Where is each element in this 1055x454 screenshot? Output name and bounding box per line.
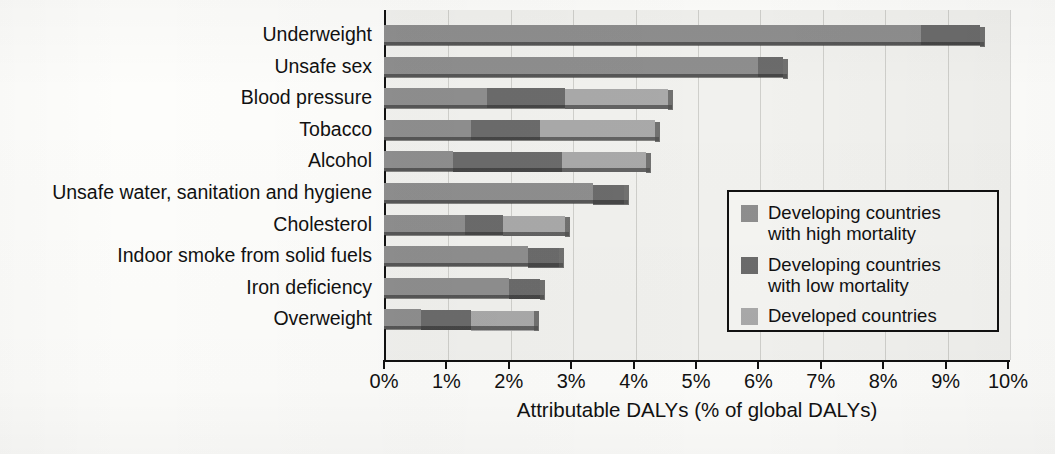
category-axis-labels: UnderweightUnsafe sexBlood pressureTobac… bbox=[0, 10, 378, 360]
category-label-iron-deficiency: Iron deficiency bbox=[246, 278, 372, 298]
bar-shadow bbox=[384, 42, 984, 46]
legend-item-developed[interactable]: Developed countries bbox=[741, 305, 989, 326]
category-label-unsafe-water-sanitation-and-hygiene: Unsafe water, sanitation and hygiene bbox=[52, 183, 372, 203]
legend-item-high-mortality[interactable]: Developing countries with high mortality bbox=[741, 202, 989, 245]
legend-label-developed: Developed countries bbox=[768, 305, 937, 326]
category-label-blood-pressure: Blood pressure bbox=[241, 88, 372, 108]
bar-end-cap bbox=[624, 185, 629, 205]
bar-end-cap bbox=[668, 90, 673, 110]
legend-label-low-mortality: Developing countries with low mortality bbox=[768, 254, 941, 297]
bar-shadow bbox=[384, 168, 650, 172]
x-tick-7% bbox=[820, 360, 822, 369]
bar-end-cap bbox=[783, 59, 788, 79]
category-label-cholesterol: Cholesterol bbox=[273, 215, 372, 235]
legend-swatch-high-mortality bbox=[741, 205, 758, 222]
x-tick-label-6%: 6% bbox=[744, 370, 773, 393]
bar-shadow bbox=[384, 232, 569, 236]
x-tick-label-0%: 0% bbox=[370, 370, 399, 393]
bar-shadow bbox=[384, 326, 538, 330]
bar-shadow bbox=[384, 263, 563, 267]
x-tick-label-2%: 2% bbox=[494, 370, 523, 393]
legend-label-high-mortality: Developing countries with high mortality bbox=[768, 202, 941, 245]
x-tick-2% bbox=[508, 360, 510, 369]
category-label-overweight: Overweight bbox=[273, 309, 372, 329]
x-tick-0% bbox=[383, 360, 385, 369]
x-tick-label-10%: 10% bbox=[988, 370, 1028, 393]
bar-end-cap bbox=[655, 122, 660, 142]
chart-legend: Developing countries with high mortality… bbox=[727, 190, 999, 332]
bar-shadow bbox=[384, 105, 672, 109]
x-axis-title: Attributable DALYs (% of global DALYs) bbox=[384, 398, 1010, 422]
x-axis-line bbox=[384, 360, 1010, 362]
x-tick-label-4%: 4% bbox=[619, 370, 648, 393]
x-tick-label-1%: 1% bbox=[432, 370, 461, 393]
bar-shadow bbox=[384, 295, 544, 299]
chart-page: UnderweightUnsafe sexBlood pressureTobac… bbox=[0, 0, 1055, 454]
category-label-alcohol: Alcohol bbox=[308, 151, 372, 171]
x-tick-3% bbox=[570, 360, 572, 369]
x-tick-5% bbox=[695, 360, 697, 369]
bar-end-cap bbox=[646, 153, 651, 173]
x-tick-label-9%: 9% bbox=[931, 370, 960, 393]
legend-item-low-mortality[interactable]: Developing countries with low mortality bbox=[741, 254, 989, 297]
x-tick-6% bbox=[757, 360, 759, 369]
bar-end-cap bbox=[980, 27, 985, 47]
x-tick-label-5%: 5% bbox=[682, 370, 711, 393]
category-label-underweight: Underweight bbox=[263, 25, 372, 45]
x-tick-label-8%: 8% bbox=[869, 370, 898, 393]
x-tick-4% bbox=[633, 360, 635, 369]
bar-end-cap bbox=[540, 280, 545, 300]
x-tick-1% bbox=[445, 360, 447, 369]
bar-end-cap bbox=[534, 311, 539, 331]
bar-end-cap bbox=[565, 217, 570, 237]
bar-shadow bbox=[384, 200, 628, 204]
legend-swatch-developed bbox=[741, 308, 758, 325]
x-tick-label-3%: 3% bbox=[557, 370, 586, 393]
bar-shadow bbox=[384, 137, 659, 141]
bar-end-cap bbox=[559, 248, 564, 268]
legend-swatch-low-mortality bbox=[741, 257, 758, 274]
category-label-tobacco: Tobacco bbox=[299, 120, 372, 140]
x-tick-label-7%: 7% bbox=[806, 370, 835, 393]
x-tick-8% bbox=[882, 360, 884, 369]
category-label-indoor-smoke-from-solid-fuels: Indoor smoke from solid fuels bbox=[117, 246, 372, 266]
bar-shadow bbox=[384, 74, 787, 78]
x-tick-9% bbox=[945, 360, 947, 369]
x-tick-10% bbox=[1007, 360, 1009, 369]
category-label-unsafe-sex: Unsafe sex bbox=[274, 57, 372, 77]
